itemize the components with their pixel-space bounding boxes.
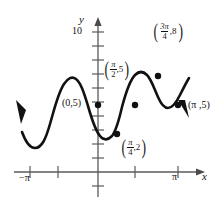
- y-tick-label-10: 10: [72, 26, 82, 36]
- point-pi-over-2: [132, 102, 138, 108]
- curve-left-arrowhead: [16, 100, 26, 124]
- x-axis-label: x: [202, 171, 207, 182]
- x-tick-label-negative-pi: −π: [19, 173, 30, 183]
- point-label-pi-over-2: ( π 2 ,5 ): [103, 60, 131, 79]
- paren-close: ): [125, 60, 130, 79]
- graph-figure: y x 10 −π π (0,5) (π ,5) ( π 2 ,5 ) ( π …: [0, 0, 221, 201]
- paren-close: ): [178, 22, 183, 41]
- coordinate-tail: ,8: [170, 27, 177, 36]
- y-axis-label: y: [79, 14, 84, 25]
- sinusoid-curve: [22, 72, 189, 148]
- coordinate-tail: ,2: [134, 143, 141, 152]
- paren-close: ): [142, 138, 147, 157]
- point-label-origin: (0,5): [62, 98, 81, 108]
- fraction-3pi-over-4: 3π 4: [159, 22, 170, 40]
- paren-open: (: [121, 138, 126, 157]
- marked-points: [95, 73, 181, 137]
- point-pi-5: [175, 102, 181, 108]
- paren-open: (: [104, 60, 109, 79]
- point-label-3pi-over-4: ( 3π 4 ,8 ): [152, 22, 184, 41]
- point-label-pi: (π ,5): [188, 100, 210, 110]
- point-pi-over-4: [114, 131, 120, 137]
- coordinate-tail: ,5: [117, 65, 124, 74]
- paren-open: (: [153, 22, 158, 41]
- point-0-5: [95, 102, 101, 108]
- point-3pi-over-4: [155, 73, 161, 79]
- x-tick-label-pi: π: [172, 172, 177, 182]
- point-label-pi-over-4: ( π 4 ,2 ): [120, 138, 148, 157]
- y-axis-arrowhead: [94, 17, 101, 26]
